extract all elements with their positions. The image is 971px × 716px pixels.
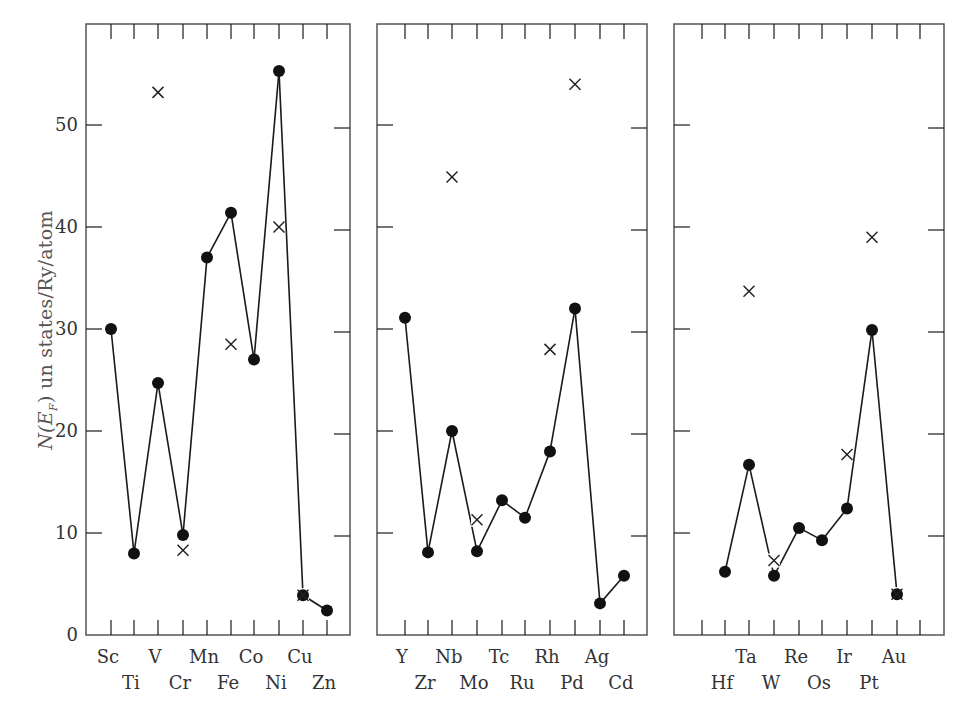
data-point-Hf — [719, 566, 731, 578]
x-label-Sc: Sc — [97, 646, 119, 667]
data-point-Ti — [128, 547, 140, 559]
x-label-Os: Os — [807, 672, 831, 693]
x-label-Cu: Cu — [287, 646, 312, 667]
x-label-Pd: Pd — [560, 672, 584, 693]
series-line — [254, 71, 279, 360]
data-point-Mn — [201, 252, 213, 264]
x-label-Y: Y — [395, 646, 409, 667]
x-label-Rh: Rh — [534, 646, 560, 667]
series-line — [428, 431, 452, 552]
data-point-Tc — [496, 494, 508, 506]
x-label-W: W — [762, 672, 781, 693]
data-point-Ta — [743, 459, 755, 471]
series-line — [279, 71, 303, 595]
x-label-Mn: Mn — [189, 646, 219, 667]
x-label-Pt: Pt — [859, 672, 879, 693]
data-point-Re — [793, 522, 805, 534]
series-line — [525, 451, 550, 517]
series-line — [134, 383, 158, 553]
data-point-Ir — [841, 503, 853, 515]
y-tick-label: 20 — [55, 420, 78, 441]
data-point-Ni — [273, 65, 285, 77]
series-line — [725, 465, 749, 572]
y-tick-label: 40 — [55, 216, 78, 237]
data-point-Os — [816, 534, 828, 546]
x-label-Re: Re — [784, 646, 808, 667]
x-label-Hf: Hf — [711, 672, 735, 693]
x-label-Cd: Cd — [608, 672, 633, 693]
series-line — [872, 330, 897, 594]
y-tick-label: 0 — [67, 624, 78, 645]
x-label-Ag: Ag — [584, 646, 610, 667]
data-point-W — [768, 570, 780, 582]
series-line — [822, 509, 847, 541]
panel-3: HfTaWReOsIrPtAu — [674, 24, 944, 693]
data-point-Fe — [225, 207, 237, 219]
series-line — [183, 258, 207, 535]
data-point-V — [152, 377, 164, 389]
data-point-Mo — [471, 545, 483, 557]
series-line — [774, 528, 799, 576]
series-line — [158, 383, 183, 535]
x-label-Ir: Ir — [836, 646, 852, 667]
series-line — [452, 431, 477, 551]
data-point-Pt — [866, 324, 878, 336]
series-line — [847, 330, 872, 509]
x-label-Fe: Fe — [217, 672, 239, 693]
series-line — [575, 309, 600, 604]
series-line — [207, 213, 231, 258]
data-point-Sc — [105, 323, 117, 335]
x-label-V: V — [148, 646, 163, 667]
panel-frame — [377, 24, 647, 635]
data-point-Y — [399, 312, 411, 324]
panel-frame — [674, 24, 944, 635]
y-tick-label: 10 — [55, 522, 78, 543]
x-label-Ti: Ti — [122, 672, 140, 693]
series-line — [550, 309, 575, 452]
data-point-Cd — [618, 570, 630, 582]
panel-frame — [86, 24, 350, 635]
data-point-Ru — [519, 512, 531, 524]
x-label-Ni: Ni — [265, 672, 287, 693]
x-label-Tc: Tc — [489, 646, 510, 667]
data-point-Rh — [544, 445, 556, 457]
data-point-Zn — [321, 605, 333, 617]
x-label-Ru: Ru — [509, 672, 534, 693]
x-label-Zn: Zn — [312, 672, 337, 693]
data-point-Ag — [594, 597, 606, 609]
data-point-Pd — [569, 303, 581, 315]
data-point-Nb — [446, 425, 458, 437]
chart-area: 01020304050ScTiVCrMnFeCoNiCuZnYZrNbMoTcR… — [0, 0, 971, 716]
x-label-Mo: Mo — [459, 672, 488, 693]
x-label-Nb: Nb — [435, 646, 462, 667]
data-point-Co — [248, 354, 260, 366]
y-tick-label: 50 — [55, 114, 78, 135]
series-line — [405, 318, 428, 553]
panel-2: YZrNbMoTcRuRhPdAgCd — [377, 24, 647, 693]
x-label-Zr: Zr — [414, 672, 436, 693]
x-label-Ta: Ta — [735, 646, 757, 667]
x-label-Au: Au — [881, 646, 907, 667]
panel-1: 01020304050ScTiVCrMnFeCoNiCuZn — [55, 24, 350, 693]
y-tick-label: 30 — [55, 318, 78, 339]
x-label-Cr: Cr — [169, 672, 192, 693]
data-point-Zr — [422, 546, 434, 558]
data-point-Cr — [177, 529, 189, 541]
x-label-Co: Co — [239, 646, 264, 667]
series-line — [111, 329, 134, 553]
